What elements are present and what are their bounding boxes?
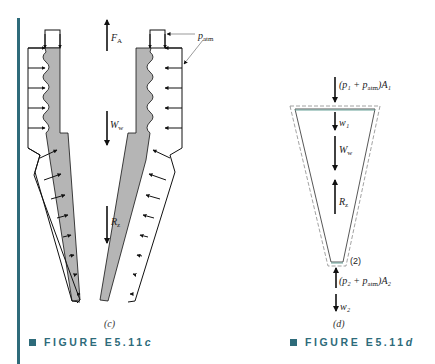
- figure-caption-c: FIGURE E5.11c: [29, 336, 153, 348]
- w2-label: w₂: [340, 301, 350, 312]
- reaction-z-label-d: Rz: [339, 196, 348, 209]
- section-2-label: (2): [350, 256, 361, 266]
- force-a-label: FA: [111, 32, 122, 45]
- nozzle-left: [28, 30, 80, 303]
- weight-water-label-d: Ww: [339, 144, 352, 157]
- panel-label-d: (d): [333, 318, 345, 329]
- w1-label: w₁: [339, 117, 349, 128]
- reaction-z-label: Rz: [111, 216, 120, 229]
- figure-caption-d: FIGURE E5.11d: [290, 336, 415, 348]
- figure-drawings: [0, 0, 435, 364]
- caption-square-icon: [29, 339, 36, 346]
- panel-label-c: (c): [104, 318, 115, 329]
- caption-square-icon: [290, 339, 297, 346]
- bottom-force-label: (p₂ + patm)A₂: [339, 275, 391, 288]
- weight-water-label: Ww: [110, 119, 123, 132]
- p-atm-label: patm: [198, 30, 214, 43]
- nozzle-right: [100, 30, 203, 302]
- top-force-label: (p₁ + patm)A₁: [339, 79, 391, 92]
